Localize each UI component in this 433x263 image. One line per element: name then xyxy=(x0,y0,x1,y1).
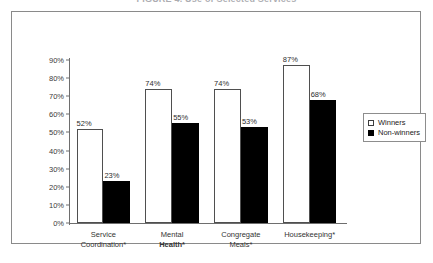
y-tick-mark xyxy=(66,223,69,224)
legend-swatch-open-square-icon xyxy=(368,120,374,126)
bar-non-winners[interactable]: 68% xyxy=(310,100,337,223)
bar-value-label: 74% xyxy=(214,79,229,88)
y-tick-label: 10% xyxy=(49,200,64,209)
y-tick-mark xyxy=(66,150,69,151)
y-tick-label: 80% xyxy=(49,74,64,83)
legend-item-winners: Winners xyxy=(368,118,420,127)
y-tick-mark xyxy=(66,204,69,205)
y-tick-mark xyxy=(66,114,69,115)
bar-group: 87%68%Housekeeping* xyxy=(283,60,337,223)
y-tick-label: 40% xyxy=(49,146,64,155)
y-tick-label: 30% xyxy=(49,164,64,173)
y-tick-label: 50% xyxy=(49,128,64,137)
chart-legend: Winners Non-winners xyxy=(363,113,426,142)
bar-group: 74%53%CongregateMeals* xyxy=(214,60,268,223)
bar-winners[interactable]: 74% xyxy=(214,89,241,223)
bar-non-winners[interactable]: 55% xyxy=(172,123,199,223)
bar-group: 74%55%MentalHealth* xyxy=(145,60,199,223)
y-tick-mark xyxy=(66,60,69,61)
x-axis-category-line: Health* xyxy=(159,240,185,250)
x-axis-category-line: Coordination* xyxy=(81,240,126,250)
y-tick-mark xyxy=(66,132,69,133)
y-tick-label: 60% xyxy=(49,110,64,119)
x-axis-category-line: Housekeeping* xyxy=(284,230,335,240)
y-tick-mark xyxy=(66,96,69,97)
bar-value-label: 55% xyxy=(173,113,188,122)
bar-value-label: 74% xyxy=(145,79,160,88)
x-axis-category-line: Meals* xyxy=(221,240,260,250)
x-axis-category-line: Congregate xyxy=(221,230,260,240)
bar-non-winners[interactable]: 23% xyxy=(103,181,130,223)
bar-winners[interactable]: 52% xyxy=(77,129,104,223)
x-axis-line xyxy=(69,223,347,224)
bar-group-bars: 87%68% xyxy=(283,60,337,223)
y-tick-label: 70% xyxy=(49,92,64,101)
bar-winners[interactable]: 87% xyxy=(283,65,310,223)
x-axis-category-line: Mental xyxy=(159,230,185,240)
bar-group: 52%23%ServiceCoordination* xyxy=(77,60,131,223)
plot-area: 0%10%20%30%40%50%60%70%80%90% 52%23%Serv… xyxy=(69,60,344,223)
y-tick-label: 20% xyxy=(49,182,64,191)
figure-frame: 0%10%20%30%40%50%60%70%80%90% 52%23%Serv… xyxy=(11,11,421,244)
y-tick-mark xyxy=(66,78,69,79)
x-axis-category-label: ServiceCoordination* xyxy=(81,230,126,249)
bar-non-winners[interactable]: 53% xyxy=(241,127,268,223)
bar-group-bars: 52%23% xyxy=(77,60,131,223)
bar-value-label: 23% xyxy=(104,171,119,180)
bar-value-label: 68% xyxy=(311,90,326,99)
bar-value-label: 53% xyxy=(242,117,257,126)
legend-swatch-filled-square-icon xyxy=(368,130,374,136)
bar-value-label: 52% xyxy=(77,119,92,128)
x-axis-category-line: Service xyxy=(81,230,126,240)
x-axis-category-label: Housekeeping* xyxy=(284,230,335,240)
legend-label-winners: Winners xyxy=(378,118,406,127)
x-axis-category-label: CongregateMeals* xyxy=(221,230,260,249)
legend-label-non-winners: Non-winners xyxy=(378,128,420,137)
bar-group-bars: 74%53% xyxy=(214,60,268,223)
y-tick-mark xyxy=(66,168,69,169)
y-tick-label: 90% xyxy=(49,56,64,65)
figure-caption: FIGURE 4. Use of Selected Services xyxy=(0,0,433,4)
x-axis-category-label: MentalHealth* xyxy=(159,230,185,249)
bar-group-bars: 74%55% xyxy=(145,60,199,223)
legend-item-non-winners: Non-winners xyxy=(368,128,420,137)
y-tick-mark xyxy=(66,186,69,187)
bar-winners[interactable]: 74% xyxy=(145,89,172,223)
bar-value-label: 87% xyxy=(283,55,298,64)
y-tick-label: 0% xyxy=(53,219,64,228)
